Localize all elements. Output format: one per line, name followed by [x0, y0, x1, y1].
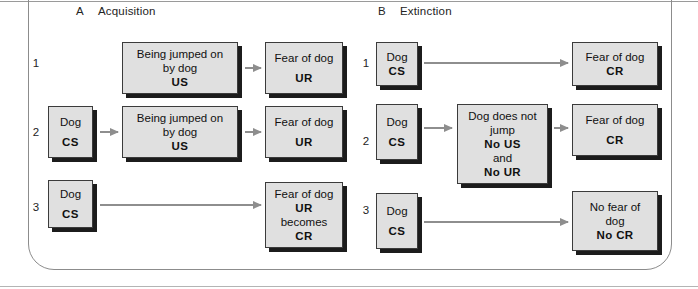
row-number-a3: 3 — [30, 201, 42, 213]
arrow-a3-cs-to-cr — [100, 204, 261, 206]
panel-b-caption: BExtinction — [378, 5, 452, 17]
node-b2-no-us-no-ur: Dog does not jump No US and No UR — [457, 104, 548, 184]
node-a1-us-line3: US — [172, 75, 189, 89]
node-a1-ur-line1: Fear of dog — [275, 51, 334, 65]
row-number-b2: 2 — [360, 135, 372, 147]
node-a2-us-line3: US — [172, 139, 189, 153]
frame-top-rule — [0, 1, 698, 2]
node-b3-no-cr: No fear of dog No CR — [572, 191, 658, 251]
node-b2-line2: jump — [490, 123, 515, 137]
panel-a-title: Acquisition — [98, 5, 156, 17]
node-b1-cr-line2: CR — [606, 64, 623, 78]
node-b2-cr: Fear of dog CR — [572, 104, 658, 156]
node-a2-us-line1: Being jumped on — [137, 111, 223, 125]
panel-a-caption: AAcquisition — [76, 5, 156, 17]
node-a1-us-line2: by dog — [163, 61, 198, 75]
node-a1-us-line1: Being jumped on — [137, 47, 223, 61]
frame-bottom-rule — [0, 286, 698, 287]
panel-b-title: Extinction — [400, 5, 452, 17]
node-a2-cs-line2: CS — [62, 135, 79, 149]
node-a1-ur: Fear of dog UR — [265, 42, 343, 94]
figure-root: AAcquisition 1 Being jumped on by dog US… — [0, 0, 698, 289]
node-a2-us-line2: by dog — [163, 125, 198, 139]
node-a3-cr: Fear of dog UR becomes CR — [265, 182, 343, 248]
arrow-b3-cs-to-nocr — [424, 221, 568, 223]
node-a1-us: Being jumped on by dog US — [122, 42, 238, 94]
node-b2-line1: Dog does not — [468, 109, 536, 123]
node-a1-ur-line2: UR — [295, 71, 312, 85]
node-b1-cr-line1: Fear of dog — [586, 50, 645, 64]
node-b2-line3: No US — [484, 137, 521, 151]
node-b1-cr: Fear of dog CR — [572, 42, 658, 86]
row-number-a1: 1 — [30, 57, 42, 69]
node-a3-cs-line1: Dog — [60, 187, 81, 201]
node-a3-cs: Dog CS — [48, 180, 93, 228]
node-a2-ur-line1: Fear of dog — [275, 115, 334, 129]
node-a3-cr-line2: UR — [295, 201, 312, 215]
node-a3-cr-line4: CR — [295, 229, 312, 243]
node-b3-cs: Dog CS — [376, 193, 418, 249]
node-b3-cs-line1: Dog — [386, 204, 407, 218]
node-a2-cs: Dog CS — [48, 106, 93, 158]
row-number-b3: 3 — [360, 204, 372, 216]
node-b2-cr-line2: CR — [606, 133, 623, 147]
row-number-b1: 1 — [360, 57, 372, 69]
node-b1-cs-line1: Dog — [386, 50, 407, 64]
arrow-b2-nous-to-cr — [554, 127, 568, 129]
node-b2-cs-line1: Dog — [386, 115, 407, 129]
node-b2-line5: No UR — [484, 165, 521, 179]
arrow-a2-us-to-ur — [245, 131, 261, 133]
row-number-a2: 2 — [30, 126, 42, 138]
arrow-b1-cs-to-cr — [424, 62, 568, 64]
node-a3-cr-line1: Fear of dog — [275, 187, 334, 201]
node-b2-line4: and — [493, 151, 512, 165]
node-a2-us: Being jumped on by dog US — [122, 106, 238, 158]
node-a2-ur: Fear of dog UR — [265, 106, 343, 158]
node-a2-cs-line1: Dog — [60, 115, 81, 129]
node-b3-line3: No CR — [596, 228, 633, 242]
panel-b-letter: B — [378, 5, 386, 17]
node-a3-cs-line2: CS — [62, 207, 79, 221]
arrow-a2-cs-to-us — [100, 131, 118, 133]
node-b1-cs-line2: CS — [389, 64, 406, 78]
node-b3-line1: No fear of — [590, 200, 641, 214]
node-b3-cs-line2: CS — [389, 224, 406, 238]
node-b2-cs: Dog CS — [376, 104, 418, 160]
node-b1-cs: Dog CS — [376, 42, 418, 86]
node-b2-cr-line1: Fear of dog — [586, 113, 645, 127]
node-a2-ur-line2: UR — [295, 135, 312, 149]
node-b2-cs-line2: CS — [389, 135, 406, 149]
arrow-b2-cs-to-nous — [424, 127, 452, 129]
arrow-a1-us-to-ur — [245, 67, 261, 69]
node-a3-cr-line3: becomes — [281, 215, 328, 229]
node-b3-line2: dog — [605, 214, 624, 228]
panel-a-letter: A — [76, 5, 84, 17]
